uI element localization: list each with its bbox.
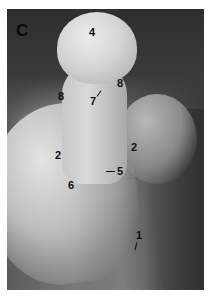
label-7: 7 bbox=[90, 96, 96, 107]
panel-letter: C bbox=[16, 22, 28, 39]
label-2-right: 2 bbox=[131, 142, 137, 153]
figure-photo bbox=[7, 9, 204, 290]
pointer-arrow-5 bbox=[106, 171, 115, 172]
label-8-left: 8 bbox=[58, 91, 64, 102]
label-4: 4 bbox=[89, 27, 95, 38]
head-region bbox=[57, 12, 137, 84]
label-6: 6 bbox=[68, 180, 74, 191]
label-5: 5 bbox=[117, 166, 123, 177]
label-8-right: 8 bbox=[117, 78, 123, 89]
stalk-region bbox=[69, 179, 166, 290]
label-1: 1 bbox=[136, 230, 142, 241]
label-2-left: 2 bbox=[55, 150, 61, 161]
right-lobe bbox=[117, 94, 197, 184]
